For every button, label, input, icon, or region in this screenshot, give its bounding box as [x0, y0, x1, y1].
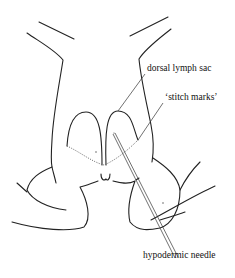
- right-lymph-sac-lobe: [106, 111, 138, 165]
- right-thigh-outline: [113, 158, 180, 230]
- dorsal-lymph-sac-leader: [118, 74, 145, 111]
- left-leg-outline: [12, 181, 98, 230]
- right-arm-upper-line: [130, 17, 168, 36]
- right-leg-lower-line: [151, 186, 215, 220]
- stitch-marks-leader: [138, 103, 163, 140]
- skin-dot: [95, 151, 96, 152]
- label-dorsal-lymph-sac: dorsal lymph sac: [147, 64, 211, 74]
- right-foot-outline: [180, 162, 200, 190]
- label-hypodermic-needle: hypodermic needle: [143, 251, 216, 261]
- hypodermic-needle-line-a: [113, 134, 175, 258]
- left-lymph-sac-lobe: [67, 112, 102, 165]
- label-stitch-marks: ‘stitch marks’: [165, 93, 218, 103]
- left-arm-upper-line: [39, 22, 74, 39]
- hypodermic-needle-line-b: [115, 133, 178, 257]
- left-thigh-outline: [27, 167, 66, 210]
- vent: [101, 174, 110, 180]
- left-thigh-tick: [17, 183, 27, 192]
- skin-dot: [113, 132, 114, 133]
- frog-diagram: [0, 0, 235, 278]
- left-body-outline: [27, 33, 63, 183]
- skin-dot: [162, 202, 163, 203]
